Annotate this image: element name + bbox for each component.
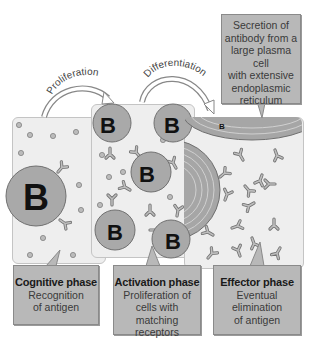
svg-text:B: B — [139, 162, 155, 187]
activation-phase-callout: Activation phase Proliferation of cells … — [113, 265, 201, 335]
svg-text:B: B — [100, 113, 116, 138]
plasma-cell-callout-text: Secretion of antibody from a large plasm… — [222, 19, 300, 107]
svg-text:B: B — [164, 113, 180, 138]
activation-phase-description: Proliferation of cells with matching rec… — [114, 289, 200, 339]
effector-phase-title: Effector phase — [214, 276, 300, 289]
differentiation-label: Differentiation — [141, 57, 209, 79]
b-cell-label: B — [23, 177, 49, 218]
cognitive-phase-callout: Cognitive phase Recognition of antigen — [13, 265, 99, 325]
cognitive-content: B — [6, 122, 84, 257]
cognitive-phase-description: Recognition of antigen — [14, 289, 98, 314]
svg-text:Differentiation: Differentiation — [141, 57, 209, 79]
effector-phase-description: Eventual elimination of antigen — [214, 289, 300, 327]
svg-text:B: B — [107, 220, 123, 245]
cognitive-phase-title: Cognitive phase — [14, 276, 98, 289]
plasma-cell-callout: Secretion of antibody from a large plasm… — [221, 14, 301, 104]
svg-text:B: B — [165, 229, 181, 254]
effector-phase-callout: Effector phase Eventual elimination of a… — [213, 265, 301, 335]
activation-phase-title: Activation phase — [114, 276, 200, 289]
svg-text:B: B — [219, 122, 225, 131]
